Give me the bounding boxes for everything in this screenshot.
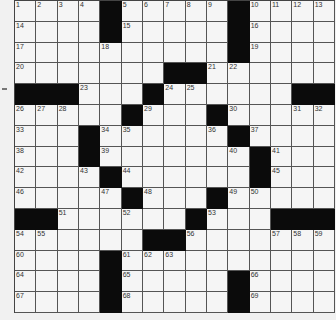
grid-cell[interactable]: [58, 188, 79, 209]
grid-cell[interactable]: 67: [15, 292, 36, 313]
grid-cell[interactable]: 12: [292, 1, 313, 22]
grid-cell[interactable]: [314, 43, 335, 64]
grid-cell[interactable]: 6: [143, 1, 164, 22]
grid-cell[interactable]: 64: [15, 271, 36, 292]
grid-cell[interactable]: [271, 84, 292, 105]
grid-cell[interactable]: [143, 271, 164, 292]
grid-cell[interactable]: 66: [250, 271, 271, 292]
grid-cell[interactable]: [58, 43, 79, 64]
grid-cell[interactable]: 53: [207, 209, 228, 230]
grid-cell[interactable]: [292, 292, 313, 313]
grid-cell[interactable]: [314, 292, 335, 313]
grid-cell[interactable]: [271, 63, 292, 84]
grid-cell[interactable]: [164, 43, 185, 64]
grid-cell[interactable]: [228, 84, 249, 105]
grid-cell[interactable]: [79, 188, 100, 209]
grid-cell[interactable]: [186, 292, 207, 313]
grid-cell[interactable]: [100, 105, 121, 126]
grid-cell[interactable]: 47: [100, 188, 121, 209]
grid-cell[interactable]: 45: [271, 167, 292, 188]
grid-cell[interactable]: [58, 22, 79, 43]
grid-cell[interactable]: [100, 63, 121, 84]
grid-cell[interactable]: [207, 292, 228, 313]
grid-cell[interactable]: [207, 147, 228, 168]
grid-cell[interactable]: [186, 147, 207, 168]
grid-cell[interactable]: [314, 22, 335, 43]
grid-cell[interactable]: [164, 209, 185, 230]
grid-cell[interactable]: 60: [15, 251, 36, 272]
grid-cell[interactable]: 43: [79, 167, 100, 188]
grid-cell[interactable]: [164, 167, 185, 188]
grid-cell[interactable]: [79, 43, 100, 64]
grid-cell[interactable]: [250, 84, 271, 105]
grid-cell[interactable]: [58, 63, 79, 84]
grid-cell[interactable]: 46: [15, 188, 36, 209]
grid-cell[interactable]: [79, 22, 100, 43]
grid-cell[interactable]: [36, 292, 57, 313]
grid-cell[interactable]: [292, 167, 313, 188]
grid-cell[interactable]: [143, 126, 164, 147]
grid-cell[interactable]: 10: [250, 1, 271, 22]
grid-cell[interactable]: [58, 126, 79, 147]
grid-cell[interactable]: [186, 167, 207, 188]
grid-cell[interactable]: 56: [186, 230, 207, 251]
grid-cell[interactable]: [36, 147, 57, 168]
grid-cell[interactable]: [164, 271, 185, 292]
grid-cell[interactable]: 27: [36, 105, 57, 126]
grid-cell[interactable]: [186, 271, 207, 292]
grid-cell[interactable]: 5: [122, 1, 143, 22]
grid-cell[interactable]: 44: [122, 167, 143, 188]
grid-cell[interactable]: [36, 22, 57, 43]
grid-cell[interactable]: 26: [15, 105, 36, 126]
grid-cell[interactable]: [186, 43, 207, 64]
grid-cell[interactable]: [164, 188, 185, 209]
grid-cell[interactable]: 29: [143, 105, 164, 126]
grid-cell[interactable]: [79, 63, 100, 84]
grid-cell[interactable]: 65: [122, 271, 143, 292]
grid-cell[interactable]: [58, 167, 79, 188]
grid-cell[interactable]: [271, 292, 292, 313]
grid-cell[interactable]: 7: [164, 1, 185, 22]
grid-cell[interactable]: [314, 167, 335, 188]
grid-cell[interactable]: 8: [186, 1, 207, 22]
grid-cell[interactable]: [207, 271, 228, 292]
grid-cell[interactable]: [314, 147, 335, 168]
grid-cell[interactable]: [228, 230, 249, 251]
grid-cell[interactable]: 48: [143, 188, 164, 209]
grid-cell[interactable]: 54: [15, 230, 36, 251]
grid-cell[interactable]: 13: [314, 1, 335, 22]
grid-cell[interactable]: [143, 167, 164, 188]
grid-cell[interactable]: [207, 251, 228, 272]
grid-cell[interactable]: [122, 147, 143, 168]
grid-cell[interactable]: [186, 105, 207, 126]
grid-cell[interactable]: [314, 271, 335, 292]
grid-cell[interactable]: [122, 63, 143, 84]
grid-cell[interactable]: [100, 209, 121, 230]
grid-cell[interactable]: [58, 147, 79, 168]
grid-cell[interactable]: [79, 292, 100, 313]
grid-cell[interactable]: [143, 22, 164, 43]
grid-cell[interactable]: 4: [79, 1, 100, 22]
grid-cell[interactable]: [228, 167, 249, 188]
grid-cell[interactable]: 40: [228, 147, 249, 168]
grid-cell[interactable]: [36, 271, 57, 292]
grid-cell[interactable]: 50: [250, 188, 271, 209]
grid-cell[interactable]: [250, 230, 271, 251]
grid-cell[interactable]: [186, 251, 207, 272]
grid-cell[interactable]: [164, 105, 185, 126]
grid-cell[interactable]: 61: [122, 251, 143, 272]
grid-cell[interactable]: 2: [36, 1, 57, 22]
grid-cell[interactable]: [186, 126, 207, 147]
grid-cell[interactable]: 37: [250, 126, 271, 147]
grid-cell[interactable]: [271, 22, 292, 43]
grid-cell[interactable]: [164, 147, 185, 168]
grid-cell[interactable]: 41: [271, 147, 292, 168]
grid-cell[interactable]: [143, 147, 164, 168]
grid-cell[interactable]: [228, 251, 249, 272]
grid-cell[interactable]: 57: [271, 230, 292, 251]
grid-cell[interactable]: [100, 84, 121, 105]
grid-cell[interactable]: [207, 84, 228, 105]
grid-cell[interactable]: 34: [100, 126, 121, 147]
grid-cell[interactable]: 69: [250, 292, 271, 313]
grid-cell[interactable]: [164, 126, 185, 147]
